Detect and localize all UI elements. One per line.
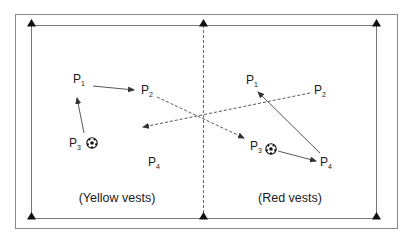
cone-marker-icon [372,212,381,220]
pass-arrow [258,92,320,153]
player-label: P4 [320,156,332,170]
cone-marker-icon [27,212,36,220]
team-caption-yellow: (Yellow vests) [79,192,156,205]
drill-diagram: P1P2P3P4P1P2P3P4 (Yellow vests) (Red ves… [0,0,414,243]
team-caption-red: (Red vests) [258,192,322,205]
pass-arrow [77,98,84,133]
soccer-ball-icon [87,138,97,149]
cone-marker-icon [199,212,208,220]
player-label: P1 [73,73,85,87]
cone-marker-icon [199,19,208,27]
pass-arrow [278,151,316,161]
outer-border [16,15,398,229]
field-drawing [0,0,414,243]
player-label: P4 [148,156,160,170]
soccer-ball-icon [266,144,276,155]
movement-arrows [77,86,320,161]
player-label: P2 [314,84,326,98]
run-arrow-dashed [143,93,310,127]
player-label: P2 [141,84,153,98]
player-label: P1 [246,74,258,88]
player-label: P3 [69,137,81,151]
cone-marker-icon [372,19,381,27]
pass-arrow [93,86,134,90]
cone-marker-icon [27,19,36,27]
player-label: P3 [250,140,262,154]
run-arrow-dashed [157,97,244,138]
soccer-balls [87,138,276,155]
